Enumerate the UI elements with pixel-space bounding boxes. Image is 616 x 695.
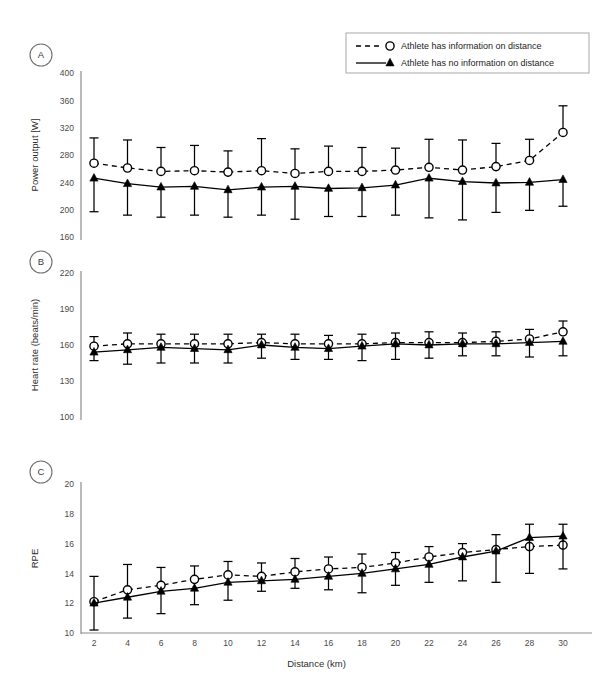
data-point-filled-triangle — [291, 575, 299, 583]
chart-panel-a: A160200240280320360400Power output [W] — [29, 44, 568, 242]
legend: Athlete has information on distanceAthle… — [346, 33, 589, 73]
data-point-filled-triangle — [224, 578, 232, 586]
legend-label: Athlete has information on distance — [401, 41, 542, 51]
chart-panel-b: B100130160190220Heart rate (beats/min) — [29, 251, 568, 422]
data-point-open-circle — [190, 575, 198, 583]
figure-container: A160200240280320360400Power output [W]B1… — [0, 0, 616, 695]
data-point-open-circle — [492, 163, 500, 171]
y-tick-label: 320 — [60, 123, 74, 133]
panel-letter-b: B — [38, 256, 44, 267]
y-tick-label: 240 — [60, 178, 74, 188]
series-informed-a — [90, 106, 568, 178]
panel-letter-a: A — [38, 49, 45, 60]
data-point-open-circle — [358, 167, 366, 175]
x-tick-label: 28 — [525, 638, 535, 648]
data-point-open-circle — [525, 156, 533, 164]
data-point-open-circle — [291, 169, 299, 177]
x-tick-label: 26 — [491, 638, 501, 648]
y-tick-label: 20 — [65, 479, 75, 489]
y-tick-label: 190 — [60, 304, 74, 314]
data-point-open-circle — [123, 164, 131, 172]
data-point-filled-triangle — [90, 174, 98, 182]
data-point-filled-triangle — [358, 183, 366, 191]
data-point-filled-triangle — [425, 174, 433, 182]
data-point-filled-triangle — [257, 182, 265, 190]
data-point-open-circle — [190, 167, 198, 175]
data-point-filled-triangle — [559, 175, 567, 183]
panel-letter-c: C — [38, 466, 45, 477]
data-point-filled-triangle — [559, 531, 567, 539]
data-point-open-circle — [257, 167, 265, 175]
y-tick-label: 10 — [65, 628, 75, 638]
y-tick-label: 14 — [65, 569, 75, 579]
legend-label: Athlete has no information on distance — [401, 58, 554, 68]
chart-panel-c: C101214161820RPE246810121416182022242628… — [29, 461, 592, 669]
data-point-open-circle — [391, 166, 399, 174]
y-axis-title-a: Power output [W] — [29, 119, 40, 192]
y-tick-label: 12 — [65, 598, 75, 608]
data-point-open-circle — [157, 167, 165, 175]
data-point-open-circle — [324, 167, 332, 175]
y-tick-label: 360 — [60, 96, 74, 106]
y-tick-label: 18 — [65, 509, 75, 519]
y-tick-label: 160 — [60, 232, 74, 242]
y-tick-label: 400 — [60, 68, 74, 78]
y-tick-label: 280 — [60, 150, 74, 160]
data-point-filled-triangle — [190, 182, 198, 190]
data-point-filled-triangle — [324, 184, 332, 192]
data-point-filled-triangle — [492, 178, 500, 186]
x-axis-title: Distance (km) — [287, 658, 346, 669]
x-tick-label: 30 — [558, 638, 568, 648]
x-tick-label: 16 — [324, 638, 334, 648]
data-point-filled-triangle — [525, 178, 533, 186]
x-tick-label: 12 — [257, 638, 267, 648]
data-point-filled-triangle — [559, 337, 567, 345]
multi-panel-chart: A160200240280320360400Power output [W]B1… — [0, 0, 616, 695]
data-point-open-circle — [90, 159, 98, 167]
data-point-open-circle — [458, 166, 466, 174]
data-point-open-circle — [425, 163, 433, 171]
series-uninformed-a — [90, 174, 568, 220]
data-point-open-circle — [559, 128, 567, 136]
y-tick-label: 100 — [60, 412, 74, 422]
y-axis-title-b: Heart rate (beats/min) — [29, 299, 40, 391]
x-tick-label: 18 — [357, 638, 367, 648]
x-tick-label: 4 — [125, 638, 130, 648]
data-point-filled-triangle — [291, 182, 299, 190]
x-tick-label: 14 — [290, 638, 300, 648]
x-tick-label: 2 — [92, 638, 97, 648]
x-tick-label: 22 — [424, 638, 434, 648]
data-point-open-circle — [224, 168, 232, 176]
x-tick-label: 6 — [159, 638, 164, 648]
x-tick-label: 10 — [223, 638, 233, 648]
data-point-filled-triangle — [324, 572, 332, 580]
y-tick-label: 220 — [60, 268, 74, 278]
data-point-open-circle — [559, 328, 567, 336]
legend-open-circle-icon — [386, 42, 394, 50]
y-axis-title-c: RPE — [29, 549, 40, 569]
y-tick-label: 130 — [60, 376, 74, 386]
y-tick-label: 16 — [65, 539, 75, 549]
y-tick-label: 160 — [60, 340, 74, 350]
data-point-filled-triangle — [525, 533, 533, 541]
y-tick-label: 200 — [60, 205, 74, 215]
x-tick-label: 20 — [391, 638, 401, 648]
x-tick-label: 24 — [458, 638, 468, 648]
x-tick-label: 8 — [192, 638, 197, 648]
